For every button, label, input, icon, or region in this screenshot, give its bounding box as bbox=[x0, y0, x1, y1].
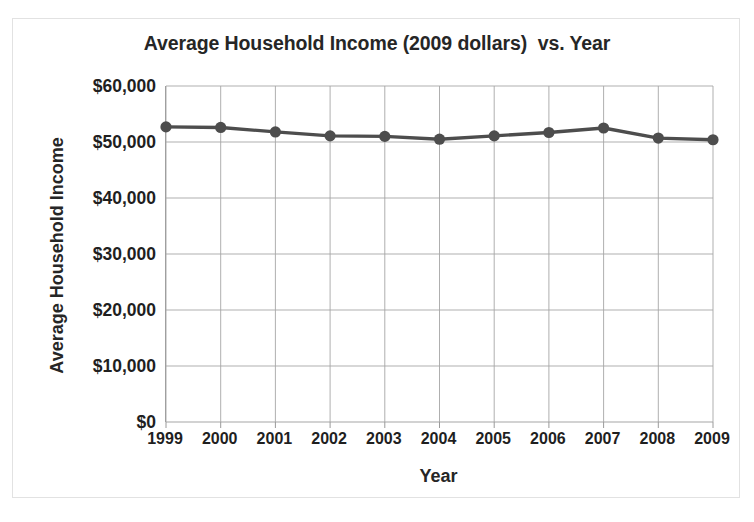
y-axis-tick-label: $40,000 bbox=[46, 188, 156, 209]
data-point-marker bbox=[489, 130, 500, 141]
data-point-marker bbox=[707, 134, 718, 145]
data-point-marker bbox=[379, 131, 390, 142]
data-point-marker bbox=[270, 126, 281, 137]
data-point-marker bbox=[215, 122, 226, 133]
data-point-marker bbox=[160, 121, 171, 132]
y-axis-tick-label: $30,000 bbox=[46, 244, 156, 265]
data-point-marker bbox=[653, 132, 664, 143]
chart-canvas bbox=[166, 86, 713, 422]
plot-area bbox=[165, 86, 712, 422]
data-point-marker bbox=[434, 134, 445, 145]
y-axis-tick-label: $20,000 bbox=[46, 300, 156, 321]
x-axis-tick-label: 2009 bbox=[680, 430, 744, 448]
chart-screenshot: Average Household Income (2009 dollars) … bbox=[0, 0, 754, 522]
y-axis-tick-label: $50,000 bbox=[46, 132, 156, 153]
x-axis-title: Year bbox=[165, 466, 712, 487]
data-point-marker bbox=[598, 122, 609, 133]
y-axis-tick-labels: $0$10,000$20,000$30,000$40,000$50,000$60… bbox=[38, 86, 156, 422]
data-point-marker bbox=[325, 130, 336, 141]
data-point-marker bbox=[543, 127, 554, 138]
y-axis-tick-label: $10,000 bbox=[46, 356, 156, 377]
x-axis-tick-labels: 1999200020012002200320042005200620072008… bbox=[165, 430, 712, 456]
y-axis-tick-label: $60,000 bbox=[46, 76, 156, 97]
chart-title: Average Household Income (2009 dollars) … bbox=[0, 32, 754, 55]
